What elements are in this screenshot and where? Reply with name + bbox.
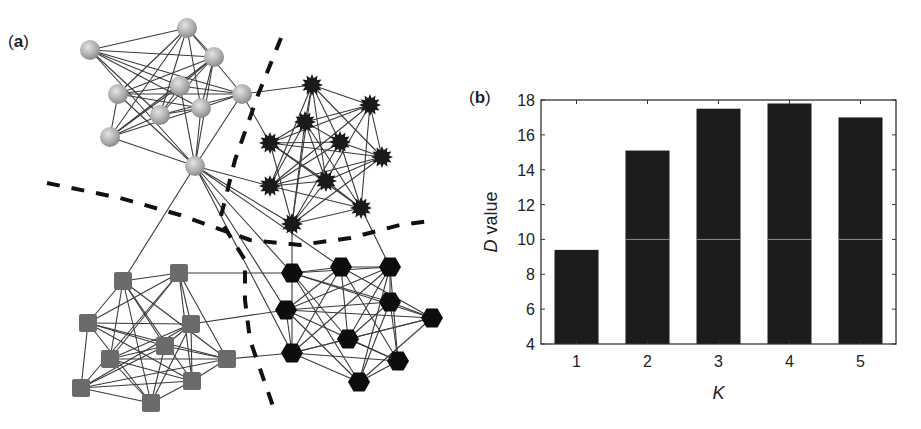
- edge: [90, 50, 180, 86]
- square-node-icon: [114, 272, 132, 290]
- y-tick-label: 10: [517, 231, 535, 248]
- sphere-node-icon: [100, 127, 120, 147]
- bar-chart: 123454681012141618KD value: [460, 0, 920, 429]
- hexagon-node-icon: [281, 264, 303, 283]
- network-graph: [0, 0, 460, 429]
- square-node-icon: [142, 394, 160, 412]
- y-tick-label: 14: [517, 162, 535, 179]
- edge: [242, 85, 312, 94]
- edge: [195, 166, 292, 353]
- axes: 123454681012141618KD value: [481, 92, 896, 403]
- edge: [88, 273, 179, 323]
- square-node-icon: [72, 379, 90, 397]
- y-tick-label: 8: [526, 266, 535, 283]
- x-tick-label: 4: [785, 353, 794, 370]
- edge: [88, 323, 191, 324]
- y-tick-label: 12: [517, 197, 535, 214]
- y-tick-label: 4: [526, 336, 535, 353]
- bar: [697, 109, 741, 344]
- edge: [361, 105, 370, 208]
- bar: [839, 117, 883, 344]
- square-node-icon: [79, 314, 97, 332]
- square-node-icon: [183, 372, 201, 390]
- nodes: [72, 18, 443, 412]
- square-node-icon: [101, 350, 119, 368]
- edge: [110, 281, 123, 359]
- bar: [626, 151, 670, 344]
- sphere-node-icon: [80, 40, 100, 60]
- sphere-node-icon: [177, 18, 197, 38]
- x-tick-label: 1: [572, 353, 581, 370]
- x-tick-label: 2: [643, 353, 652, 370]
- sphere-node-icon: [170, 76, 190, 96]
- x-tick-label: 3: [714, 353, 723, 370]
- edge: [81, 346, 165, 388]
- edge: [370, 105, 382, 157]
- y-tick-label: 16: [517, 127, 535, 144]
- sphere-node-icon: [108, 84, 128, 104]
- sphere-node-icon: [204, 47, 224, 67]
- star-node-icon: [259, 175, 281, 197]
- edge: [81, 323, 88, 388]
- figure: (a) (b) 123454681012141618KD value: [0, 0, 921, 429]
- x-axis-label: K: [712, 383, 725, 403]
- edge: [191, 310, 286, 324]
- y-tick-label: 6: [526, 301, 535, 318]
- square-node-icon: [182, 315, 200, 333]
- sphere-node-icon: [232, 84, 252, 104]
- bar: [555, 250, 599, 344]
- star-node-icon: [359, 94, 381, 116]
- star-node-icon: [259, 132, 281, 154]
- star-node-icon: [350, 197, 372, 219]
- sphere-node-icon: [185, 156, 205, 176]
- edge: [123, 166, 195, 281]
- star-node-icon: [294, 111, 316, 133]
- edge: [292, 122, 305, 224]
- y-tick-label: 18: [517, 92, 535, 109]
- horizontal-divider: [47, 183, 436, 245]
- bar: [768, 103, 812, 344]
- y-axis-label: D value: [481, 191, 501, 252]
- square-node-icon: [156, 337, 174, 355]
- star-node-icon: [281, 213, 303, 235]
- square-node-icon: [170, 264, 188, 282]
- x-tick-label: 5: [856, 353, 865, 370]
- sphere-node-icon: [191, 98, 211, 118]
- star-node-icon: [329, 131, 351, 153]
- bars: [555, 103, 883, 344]
- edge: [90, 28, 187, 50]
- edges: [81, 28, 432, 403]
- edge: [270, 122, 305, 186]
- square-node-icon: [218, 350, 236, 368]
- sphere-node-icon: [150, 105, 170, 125]
